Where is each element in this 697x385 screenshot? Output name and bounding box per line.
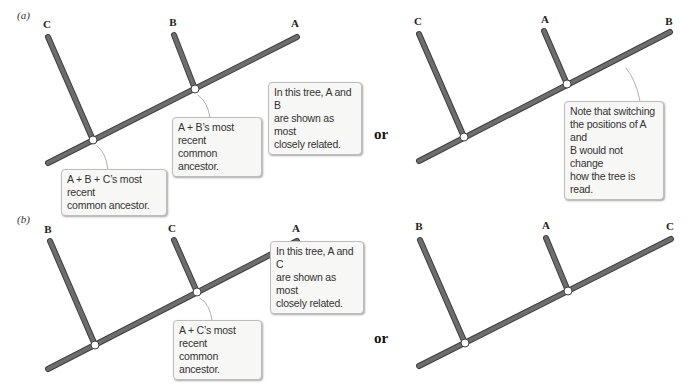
- taxon-label: C: [168, 222, 176, 234]
- or-separator: or: [374, 330, 388, 347]
- node-a-right-root: [460, 133, 468, 141]
- callout-abc-ancestor: A + B + C’s most recent common ancestor.: [61, 169, 167, 216]
- node-a-left-inner: [191, 85, 199, 93]
- taxon-label: A: [291, 17, 299, 29]
- node-b-left-root: [91, 341, 99, 349]
- callout-relation-ac: In this tree, A and C are shown as most …: [270, 241, 364, 314]
- taxon-label: B: [665, 15, 672, 27]
- node-b-right-inner: [564, 287, 572, 295]
- node-a-left-root: [89, 136, 97, 144]
- panel-label-b: (b): [17, 213, 30, 225]
- callout-ab-ancestor: A + B’s most recent common ancestor.: [172, 117, 262, 177]
- taxon-label: B: [169, 16, 176, 28]
- node-b-right-root: [461, 339, 469, 347]
- taxon-label: A: [542, 219, 550, 231]
- taxon-label: A: [292, 222, 300, 234]
- callout-relation-ab: In this tree, A and B are shown as most …: [268, 82, 362, 155]
- taxon-label: A: [541, 13, 549, 25]
- callout-ac-ancestor: A + C’s most recent common ancestor.: [173, 320, 262, 380]
- node-b-left-inner: [193, 288, 201, 296]
- callout-switch-note: Note that switching the positions of A a…: [564, 101, 664, 200]
- panel-label-a: (a): [17, 9, 30, 21]
- tree-b-right: [419, 238, 671, 366]
- taxon-label: C: [414, 15, 422, 27]
- taxon-label: B: [44, 223, 51, 235]
- taxon-label: C: [43, 18, 51, 30]
- or-separator: or: [374, 126, 388, 143]
- taxon-label: C: [666, 220, 674, 232]
- node-a-right-inner: [563, 80, 571, 88]
- taxon-label: B: [415, 220, 422, 232]
